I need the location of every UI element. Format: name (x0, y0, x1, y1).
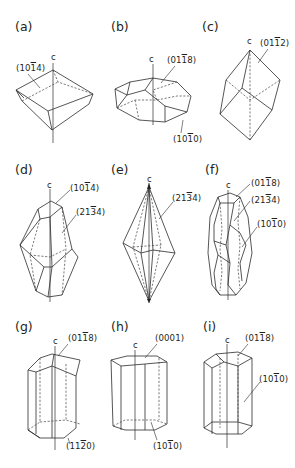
rhombohedron-crystal-drawing (0, 0, 98, 145)
rhombohedron-steep-crystal-drawing (190, 0, 295, 145)
panel-g: (g) c (0118) (1120) (0, 310, 98, 468)
panel-h: (h) c (0001) (1010) (95, 310, 195, 468)
scalenohedron-crystal-drawing (95, 145, 195, 303)
panel-b: (b) c (0118) (1010) (95, 0, 195, 145)
panel-f: (f) c (0118) (2134) (1010) (190, 145, 295, 303)
scalenohedron-rhombohedron-crystal-drawing (0, 145, 98, 303)
hexagonal-prism-basal-crystal-drawing (95, 310, 195, 468)
scalenohedral-tabular-crystal-drawing (95, 0, 195, 145)
panel-d: (d) c (1014) (2134) (0, 145, 98, 303)
prismatic-scalenohedron-crystal-drawing (190, 145, 295, 303)
panel-a: (a) c (1014) (0, 0, 98, 145)
panel-e: (e) c (2134) (95, 145, 195, 303)
hexagonal-prism-crystal-drawing (0, 310, 98, 468)
panel-c: (c) c (0112) (190, 0, 295, 145)
hexagonal-prism-rhombohedral-cap-crystal-drawing (190, 310, 295, 468)
panel-i: (i) c (0118) (1010) (190, 310, 295, 468)
